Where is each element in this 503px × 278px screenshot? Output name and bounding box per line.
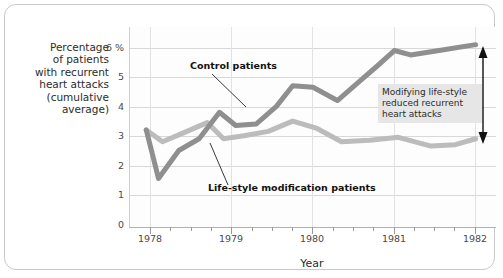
control-leader-line bbox=[212, 74, 246, 107]
x-tick-label-1978: 1978 bbox=[120, 233, 180, 244]
x-tick-1978-q3 bbox=[211, 227, 212, 231]
x-tick-1979-q2 bbox=[272, 227, 273, 231]
y-tick-label-0: 0 bbox=[86, 220, 124, 230]
x-tick-1980-q2 bbox=[353, 227, 354, 231]
y-tick-label-1: 1 bbox=[86, 190, 124, 200]
x-tick-1981-q2 bbox=[434, 227, 435, 231]
control-annotation: Control patients bbox=[190, 60, 277, 71]
data-lines bbox=[130, 27, 496, 227]
plot-area: 6 % 5 4 3 2 1 0 bbox=[129, 27, 496, 228]
x-tick-1978-q2 bbox=[191, 227, 192, 231]
x-tick-label-1980: 1980 bbox=[282, 233, 342, 244]
x-axis-title: Year bbox=[129, 257, 495, 270]
x-tick-1978-q1 bbox=[170, 227, 171, 231]
x-tick-1980-q3 bbox=[373, 227, 374, 231]
lifestyle-annotation: Life-style modification patients bbox=[208, 182, 376, 193]
lifestyle-leader-line bbox=[210, 143, 228, 185]
y-tick-label-5: 5 bbox=[86, 72, 124, 82]
x-tick-label-1982: 1982 bbox=[445, 233, 503, 244]
x-tick-1979-q1 bbox=[252, 227, 253, 231]
y-tick-label-6: 6 % bbox=[86, 43, 124, 53]
y-tick-label-4: 4 bbox=[86, 102, 124, 112]
chart-frame: Percentage of patients with recurrent he… bbox=[4, 4, 495, 270]
x-tick-1981-q3 bbox=[454, 227, 455, 231]
y-tick-label-2: 2 bbox=[86, 161, 124, 171]
x-tick-1980-q1 bbox=[333, 227, 334, 231]
x-tick-1981-q1 bbox=[414, 227, 415, 231]
gap-annotation-box: Modifying life-style reduced recurrent h… bbox=[378, 84, 482, 123]
x-tick-label-1979: 1979 bbox=[201, 233, 261, 244]
y-tick-label-3: 3 bbox=[86, 131, 124, 141]
x-tick-label-1981: 1981 bbox=[364, 233, 424, 244]
x-tick-1979-q3 bbox=[292, 227, 293, 231]
